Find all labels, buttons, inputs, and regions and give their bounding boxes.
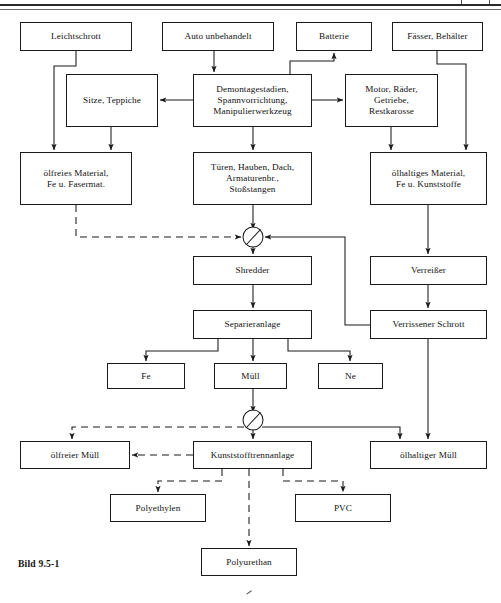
node-pvc[interactable]: PVC	[295, 494, 391, 522]
node-verreisser[interactable]: Verreißer	[370, 256, 487, 285]
node-separieranlage[interactable]: Separieranlage	[193, 310, 312, 339]
edge-kunststofftrennanlage-to-polyethylen-dashed	[158, 469, 222, 492]
node-polyethylen[interactable]: Polyethylen	[110, 494, 206, 522]
header-tick-left	[461, 0, 462, 4]
edge-oelfreies-to-junction-dashed	[76, 205, 241, 237]
node-oelhaltiges-material[interactable]: ölhaltiges Material, Fe u. Kunststoffe	[370, 152, 487, 205]
node-fe[interactable]: Fe	[107, 363, 185, 389]
edge-demontage-to-batterie	[290, 53, 334, 74]
node-muell[interactable]: Müll	[214, 363, 287, 389]
node-oelhaltiger-muell[interactable]: ölhaltiger Müll	[370, 441, 487, 469]
node-auto-unbehandelt[interactable]: Auto unbehandelt	[162, 22, 274, 51]
node-verrissener-schrott[interactable]: Verrissener Schrott	[370, 310, 487, 339]
edge-kunststofftrennanlage-to-pvc-dashed	[283, 469, 343, 492]
node-polyurethan[interactable]: Polyurethan	[201, 548, 297, 576]
node-sitze-teppiche[interactable]: Sitze, Teppiche	[66, 74, 158, 127]
figure-caption: Bild 9.5-1	[18, 558, 59, 569]
figure-canvas: Leichtschrott Auto unbehandelt Batterie …	[0, 0, 501, 603]
node-shredder[interactable]: Shredder	[193, 256, 312, 285]
node-tueren-hauben[interactable]: Türen, Hauben, Dach, Armaturenbr., Stoßs…	[193, 152, 312, 205]
header-rule-top	[0, 4, 501, 6]
edge-junction2-to-oelfreier-dashed	[72, 427, 244, 439]
node-oelfreier-muell[interactable]: ölfreier Müll	[20, 441, 130, 469]
node-demontagestadien[interactable]: Demontagestadien, Spannvorrichtung, Mani…	[193, 74, 312, 127]
edge-separieranlage-to-fe	[146, 339, 218, 361]
edge-separieranlage-to-ne	[288, 339, 350, 361]
node-ne[interactable]: Ne	[318, 363, 383, 389]
node-batterie[interactable]: Batterie	[296, 22, 372, 51]
header-rule-bottom	[0, 9, 501, 10]
edge-junction2-to-oelhaltiger	[262, 427, 400, 439]
edge-faesser-to-oelhaltiges	[437, 51, 466, 150]
node-motor-raeder[interactable]: Motor, Räder, Getriebe, Restkarosse	[345, 74, 438, 127]
node-leichtschrott[interactable]: Leichtschrott	[20, 22, 132, 51]
node-kunststofftrennanlage[interactable]: Kunststofftrennanlage	[193, 441, 312, 469]
node-faesser-behaelter[interactable]: Fässer, Behälter	[392, 22, 483, 51]
header-tick-right	[489, 0, 490, 4]
node-oelfreies-material[interactable]: ölfreies Material, Fe u. Fasermat.	[20, 152, 132, 205]
